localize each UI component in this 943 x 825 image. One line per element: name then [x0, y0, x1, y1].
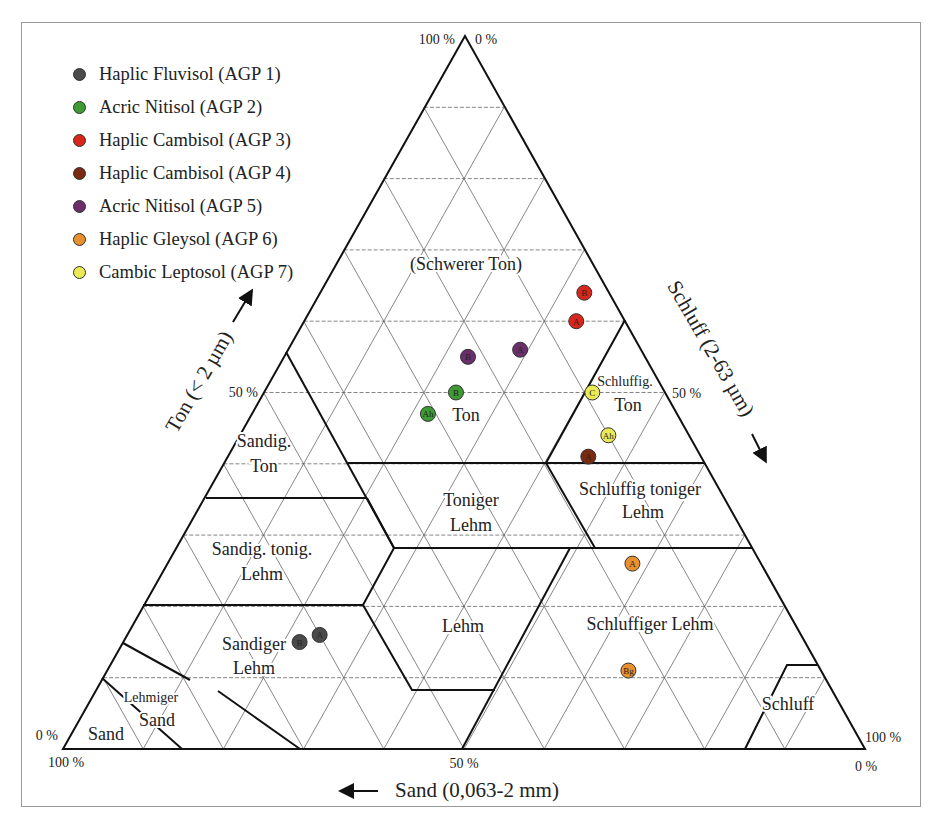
legend-item: Cambic Leptosol (AGP 7): [73, 256, 293, 289]
right-lower-label: 0 %: [855, 759, 878, 774]
region-label: Lehm: [450, 515, 492, 535]
legend-item: Acric Nitisol (AGP 2): [73, 91, 293, 124]
data-point-label: C: [589, 388, 595, 398]
data-point-label: Ah: [603, 431, 614, 441]
right-mid-label: 50 %: [672, 386, 702, 401]
legend-marker-icon: [73, 266, 86, 279]
right-upper-label: 100 %: [865, 730, 902, 745]
region-label: Ton: [614, 395, 642, 415]
legend-marker-icon: [73, 101, 86, 114]
left-mid-label: 50 %: [229, 385, 259, 400]
data-point-label: Bg: [623, 666, 634, 676]
data-point-label: A: [517, 345, 524, 355]
region-label: Lehm: [233, 658, 275, 678]
region-boundary: [218, 691, 300, 749]
region-label: Ton: [250, 456, 278, 476]
region-label: Sandiger: [222, 634, 286, 654]
clay-axis-arrow-icon: [233, 292, 251, 322]
legend: Haplic Fluvisol (AGP 1) Acric Nitisol (A…: [73, 58, 293, 289]
region-label: Sandig.: [237, 431, 292, 451]
region-label: (Schwerer Ton): [410, 254, 522, 275]
region-label: Ton: [452, 405, 480, 425]
legend-marker-icon: [73, 167, 86, 180]
region-label: Schluff: [762, 694, 815, 714]
region-label: Sand: [139, 710, 175, 730]
data-point-label: A: [629, 559, 636, 569]
legend-item: Haplic Gleysol (AGP 6): [73, 223, 293, 256]
legend-item: Haplic Cambisol (AGP 3): [73, 124, 293, 157]
legend-label: Cambic Leptosol (AGP 7): [99, 262, 293, 283]
region-label: Lehm: [622, 502, 664, 522]
legend-label: Haplic Fluvisol (AGP 1): [99, 64, 281, 85]
legend-item: Haplic Fluvisol (AGP 1): [73, 58, 293, 91]
grid-line-silt: [624, 535, 744, 749]
legend-marker-icon: [73, 200, 86, 213]
data-point-label: B: [297, 638, 303, 648]
region-label: Toniger: [443, 490, 499, 510]
region-label: Schluffig toniger: [579, 479, 701, 499]
apex-left-label: 100 %: [419, 32, 456, 47]
legend-label: Acric Nitisol (AGP 2): [99, 97, 262, 118]
region-boundary: [363, 498, 394, 605]
bottom-mid-label: 50 %: [449, 756, 479, 771]
region-label: Sand: [88, 724, 124, 744]
data-point-label: Ah: [422, 409, 433, 419]
clay-axis-title: Ton (< 2 µm): [160, 327, 237, 437]
silt-axis-arrow-icon: [752, 434, 765, 460]
region-boundary: [123, 643, 190, 680]
left-lower-label: 100 %: [48, 755, 85, 770]
legend-marker-icon: [73, 134, 86, 147]
apex-right-label: 0 %: [475, 32, 498, 47]
data-point-label: A: [573, 317, 580, 327]
legend-item: Haplic Cambisol (AGP 4): [73, 157, 293, 190]
region-label: Lehm: [442, 616, 484, 636]
legend-item: Acric Nitisol (AGP 5): [73, 190, 293, 223]
legend-label: Acric Nitisol (AGP 5): [99, 196, 262, 217]
grid-line-sand: [264, 393, 465, 750]
region-label: Lehmiger: [124, 690, 179, 705]
sand-axis-title: Sand (0,063-2 mm): [395, 778, 559, 802]
legend-marker-icon: [73, 233, 86, 246]
data-point-label: B: [453, 388, 459, 398]
region-label: Sandig. tonig.: [212, 539, 313, 559]
data-point-label: B: [581, 288, 587, 298]
legend-label: Haplic Gleysol (AGP 6): [99, 229, 278, 250]
legend-label: Haplic Cambisol (AGP 3): [99, 130, 291, 151]
grid-line-sand: [424, 107, 785, 749]
data-point-label: A: [585, 452, 592, 462]
region-boundary: [462, 548, 570, 749]
data-point-label: B: [465, 352, 471, 362]
data-point-label: A: [316, 630, 323, 640]
region-label: Schluffig.: [597, 374, 652, 389]
legend-label: Haplic Cambisol (AGP 4): [99, 163, 291, 184]
left-upper-label: 0 %: [36, 728, 59, 743]
legend-marker-icon: [73, 68, 86, 81]
region-label: Lehm: [241, 564, 283, 584]
region-label: Schluffiger Lehm: [586, 614, 713, 634]
